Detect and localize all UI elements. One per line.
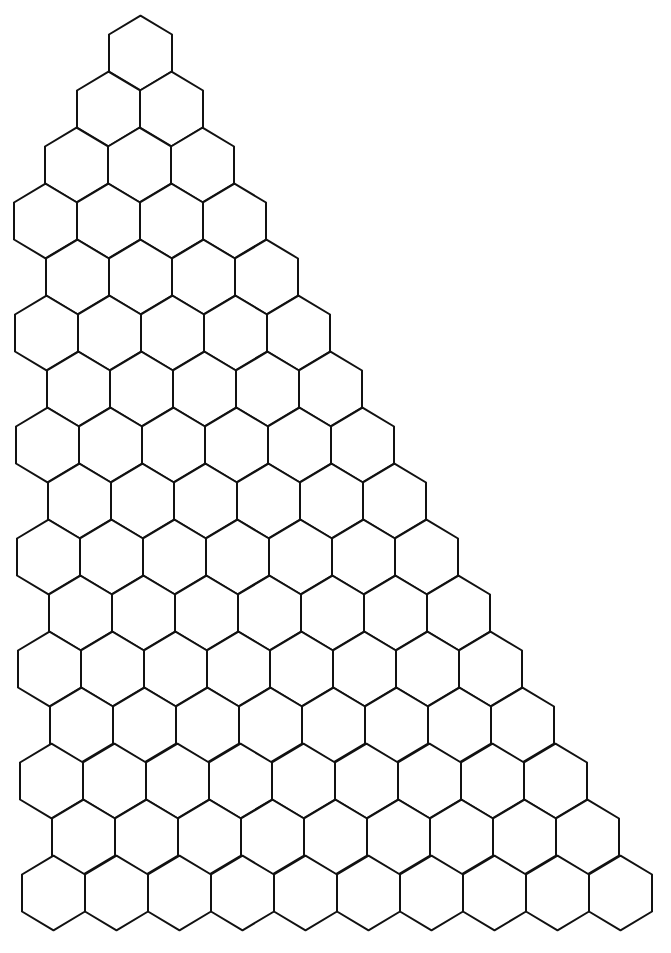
- hex-grid-svg: [0, 0, 671, 953]
- hex-grid-diagram: [0, 0, 671, 953]
